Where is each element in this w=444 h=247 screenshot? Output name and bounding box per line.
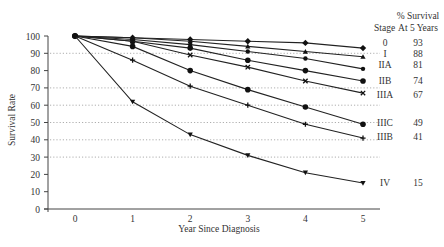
- series-iv: [72, 34, 365, 186]
- triangle-down-marker-icon: [130, 100, 135, 105]
- series-i: [72, 33, 365, 58]
- x-axis-title: Year Since Diagnosis: [178, 224, 260, 234]
- legend-survival-value: 67: [413, 90, 423, 100]
- y-tick-label: 70: [31, 83, 41, 93]
- circle-marker-icon: [303, 68, 309, 74]
- plus-marker-icon: [245, 103, 250, 108]
- legend-stage-label: IIIA: [377, 90, 393, 100]
- y-tick-label: 0: [35, 205, 40, 215]
- y-tick-label: 50: [31, 118, 41, 128]
- legend-stage-label: 0: [383, 38, 388, 48]
- legend-survival-value: 41: [413, 132, 423, 142]
- y-tick-label: 60: [31, 101, 41, 111]
- legend-stage-label: IIA: [378, 60, 391, 70]
- gridlines: [50, 53, 380, 157]
- triangle-down-marker-icon: [360, 181, 365, 186]
- star-marker-icon: [303, 56, 307, 60]
- series-line: [75, 36, 363, 124]
- circle-marker-icon: [360, 78, 366, 84]
- legend-survival-header-1: % Survival: [397, 11, 440, 21]
- legend-stage-header: Stage: [374, 23, 395, 33]
- legend-stage-label: IIIC: [377, 118, 393, 128]
- y-tick-label: 40: [31, 135, 41, 145]
- x-tick-label: 0: [73, 214, 78, 224]
- diamond-marker-icon: [360, 45, 366, 51]
- legend-survival-value: 49: [413, 118, 423, 128]
- x-ticks: 012345: [73, 214, 366, 224]
- legend-survival-value: 88: [413, 49, 423, 59]
- circle-marker-icon: [360, 121, 366, 127]
- y-tick-label: 30: [31, 153, 41, 163]
- y-tick-label: 90: [31, 49, 41, 59]
- x-tick-label: 3: [245, 214, 250, 224]
- legend-survival-value: 81: [413, 60, 423, 70]
- series-line: [75, 36, 363, 81]
- y-tick-label: 100: [26, 32, 41, 42]
- star-marker-icon: [361, 67, 365, 71]
- diamond-marker-icon: [245, 38, 251, 44]
- legend-survival-value: 93: [413, 38, 423, 48]
- x-tick-label: 4: [303, 214, 308, 224]
- series-lines: [72, 33, 366, 186]
- circle-marker-icon: [130, 44, 136, 50]
- circle-marker-icon: [187, 45, 193, 51]
- legend-survival-value: 15: [413, 178, 423, 188]
- star-marker-icon: [246, 49, 250, 53]
- y-tick-label: 10: [31, 187, 41, 197]
- y-axis-title: Survival Rate: [7, 94, 17, 146]
- x-tick-label: 1: [130, 214, 135, 224]
- survival-line-chart: 0102030405060708090100 012345 Year Since…: [0, 0, 444, 247]
- y-tick-label: 80: [31, 66, 41, 76]
- series-iiic: [72, 33, 366, 127]
- x-tick-label: 5: [361, 214, 366, 224]
- legend-stage-label: IIB: [379, 76, 392, 86]
- series-line: [75, 36, 363, 183]
- x-tick-label: 2: [188, 214, 193, 224]
- circle-marker-icon: [245, 87, 251, 93]
- y-tick-label: 20: [31, 170, 41, 180]
- legend-survival-header-2: At 5 Years: [398, 23, 438, 33]
- plus-marker-icon: [130, 58, 135, 63]
- circle-marker-icon: [303, 104, 309, 110]
- legend-stage-label: I: [383, 49, 386, 59]
- legend: Stage % Survival At 5 Years 093I88IIA81I…: [374, 11, 440, 188]
- series-iiib: [72, 33, 365, 140]
- circle-marker-icon: [245, 57, 251, 63]
- legend-stage-label: IIIB: [377, 132, 393, 142]
- legend-stage-label: IV: [380, 178, 390, 188]
- legend-survival-value: 74: [413, 76, 423, 86]
- diamond-marker-icon: [302, 40, 308, 46]
- y-ticks: 0102030405060708090100: [26, 32, 48, 215]
- circle-marker-icon: [187, 68, 193, 74]
